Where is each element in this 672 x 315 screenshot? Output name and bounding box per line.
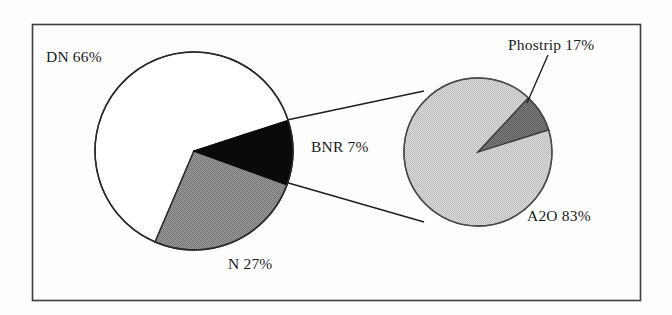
pie-label-a2o: A2O 83% xyxy=(527,207,591,225)
pie-label-n: N 27% xyxy=(228,255,272,273)
leader-line-phostrip xyxy=(527,55,548,103)
callout-lines xyxy=(285,91,424,222)
pie-label-phostrip: Phostrip 17% xyxy=(508,36,594,54)
pie-label-bnr: BNR 7% xyxy=(311,138,369,156)
callout-line-bottom xyxy=(285,182,424,222)
main-pie xyxy=(95,52,293,250)
figure-container: DN 66% N 27% BNR 7% Phostrip 17% A2O 83% xyxy=(0,0,672,315)
callout-line-top xyxy=(287,91,424,120)
pie-label-dn: DN 66% xyxy=(46,48,102,66)
exploded-bnr-pie xyxy=(404,78,552,226)
